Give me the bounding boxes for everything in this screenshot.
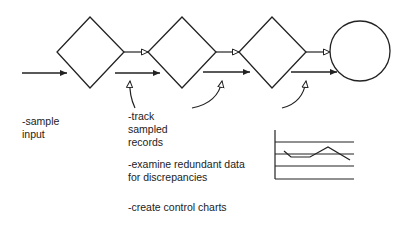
label-line: for discrepancies — [128, 171, 245, 184]
label-line: -create control charts — [128, 201, 227, 214]
process-diamond-3 — [239, 17, 306, 88]
label-line: input — [22, 128, 59, 141]
control-chart-icon — [275, 130, 354, 179]
label-control-charts: -create control charts — [128, 201, 227, 214]
label-track-records: -track sampled records — [128, 110, 168, 149]
label-sample-input: -sample input — [22, 115, 59, 141]
label-line: -track — [128, 110, 168, 123]
curved-arrow-2 — [192, 81, 222, 108]
label-line: sampled — [128, 123, 168, 136]
label-line: -sample — [22, 115, 59, 128]
process-diamond-1 — [57, 17, 124, 88]
process-flow-diagram — [0, 0, 407, 227]
label-line: records — [128, 136, 168, 149]
label-examine-data: -examine redundant data for discrepancie… — [128, 158, 245, 184]
curved-arrow-3 — [282, 81, 306, 108]
process-diamond-2 — [148, 17, 216, 88]
curved-arrow-1 — [130, 81, 135, 108]
end-circle — [330, 21, 390, 81]
label-line: -examine redundant data — [128, 158, 245, 171]
